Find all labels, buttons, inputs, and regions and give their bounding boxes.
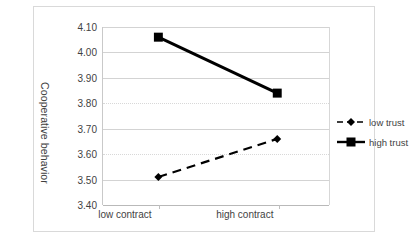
legend-swatch-square-icon	[337, 136, 365, 148]
series-line	[158, 139, 277, 177]
x-axis-tick-label: low contract	[98, 209, 151, 220]
x-axis-tick-label: high contract	[216, 209, 273, 220]
y-axis-tick-label: 3.90	[78, 72, 97, 83]
y-axis-tick-label: 3.60	[78, 149, 97, 160]
plot-area: 3.403.503.603.703.803.904.004.10	[102, 27, 330, 205]
legend-label: high trust	[369, 137, 408, 148]
y-axis-tick-label: 4.10	[78, 22, 97, 33]
legend-label: low trust	[369, 117, 404, 128]
data-point-marker	[273, 89, 282, 98]
data-point-marker	[273, 135, 281, 143]
x-axis-tick	[279, 205, 280, 209]
data-point-marker	[154, 173, 162, 181]
y-axis-tick-label: 3.50	[78, 174, 97, 185]
y-axis-tick-label: 3.70	[78, 123, 97, 134]
legend-item-high-trust[interactable]: high trust	[337, 132, 409, 152]
series-low-trust	[154, 135, 281, 181]
legend-item-low-trust[interactable]: low trust	[337, 112, 409, 132]
y-axis-tick-label: 3.80	[78, 98, 97, 109]
data-point-marker	[154, 33, 163, 42]
chart-frame: Cooperative behavior 3.403.503.603.703.8…	[33, 6, 375, 232]
x-axis-tick	[159, 205, 160, 209]
legend-swatch-diamond-icon	[337, 116, 365, 128]
y-axis-tick-label: 3.40	[78, 200, 97, 211]
y-axis-title: Cooperative behavior	[34, 7, 56, 252]
gridline	[103, 205, 329, 206]
chart-legend: low trusthigh trust	[337, 112, 409, 152]
series-high-trust	[154, 33, 282, 98]
y-axis-tick-label: 4.00	[78, 47, 97, 58]
series-line	[158, 37, 277, 93]
series-layer	[103, 27, 329, 205]
